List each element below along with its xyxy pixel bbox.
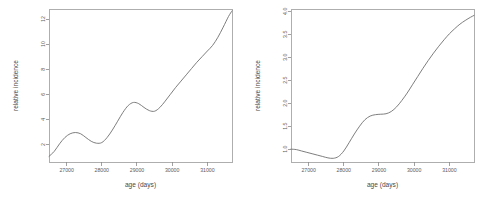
right-plot-area: 27000280002900030000310001.01.52.02.53.0… bbox=[254, 8, 474, 189]
y-axis-tick-label: 2.5 bbox=[282, 76, 288, 83]
y-axis-tick-label: 2 bbox=[40, 143, 46, 146]
y-axis-tick-label: 3.0 bbox=[282, 54, 288, 61]
x-axis-title: age (days) bbox=[367, 181, 398, 189]
x-axis-tick-label: 30000 bbox=[407, 167, 422, 173]
y-axis-tick-label: 1.5 bbox=[282, 122, 288, 129]
x-axis-tick-label: 28000 bbox=[337, 167, 352, 173]
x-axis-tick-label: 27000 bbox=[301, 167, 316, 173]
y-axis-tick-label: 4.0 bbox=[282, 8, 288, 15]
x-axis-tick-label: 27000 bbox=[59, 167, 74, 173]
x-axis-tick-label: 31000 bbox=[442, 167, 457, 173]
right-panel-svg: 27000280002900030000310001.01.52.02.53.0… bbox=[242, 0, 483, 206]
y-axis-title: relative incidence bbox=[254, 60, 261, 111]
left-panel-svg: 270002800029000300003100024681012age (da… bbox=[0, 0, 241, 206]
x-axis-tick-label: 29000 bbox=[130, 167, 145, 173]
y-axis-tick-label: 1.0 bbox=[282, 145, 288, 152]
right-panel: 27000280002900030000310001.01.52.02.53.0… bbox=[242, 0, 483, 206]
y-axis-tick-label: 8 bbox=[40, 68, 46, 71]
y-axis-tick-label: 4 bbox=[40, 118, 46, 121]
plot-frame bbox=[291, 9, 474, 162]
incidence-curve bbox=[291, 15, 474, 158]
x-axis-tick-label: 30000 bbox=[165, 167, 180, 173]
y-axis-tick-label: 12 bbox=[40, 16, 46, 22]
y-axis-tick-label: 2.0 bbox=[282, 99, 288, 106]
x-axis-title: age (days) bbox=[125, 181, 156, 189]
incidence-curve bbox=[49, 11, 232, 156]
y-axis-tick-label: 10 bbox=[40, 41, 46, 47]
y-axis-tick-label: 6 bbox=[40, 93, 46, 96]
plot-frame bbox=[49, 9, 232, 162]
x-axis-tick-label: 28000 bbox=[95, 167, 110, 173]
left-panel: 270002800029000300003100024681012age (da… bbox=[0, 0, 241, 206]
figure-container: 270002800029000300003100024681012age (da… bbox=[0, 0, 483, 206]
x-axis-tick-label: 29000 bbox=[372, 167, 387, 173]
y-axis-tick-label: 3.5 bbox=[282, 31, 288, 38]
left-plot-area: 270002800029000300003100024681012age (da… bbox=[12, 9, 232, 189]
x-axis-tick-label: 31000 bbox=[200, 167, 215, 173]
y-axis-title: relative incidence bbox=[12, 60, 19, 111]
